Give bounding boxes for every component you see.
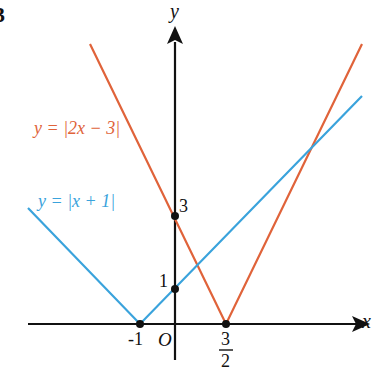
blue-curve-label: y = |x + 1| (38, 191, 115, 212)
y-axis-label: y (170, 0, 179, 23)
point-y1 (171, 285, 179, 293)
x-axis-label: x (362, 310, 371, 333)
red-curve (90, 44, 362, 324)
tick-label-neg1: -1 (128, 329, 143, 350)
tick-label-frac-num: 3 (221, 329, 230, 350)
tick-label-1: 1 (159, 271, 168, 292)
tick-label-3: 3 (179, 196, 188, 217)
point-neg1 (136, 320, 144, 328)
tick-label-frac-den: 2 (221, 351, 230, 372)
point-y3 (171, 212, 179, 220)
y-axis-arrow-icon (167, 26, 183, 44)
red-curve-label: y = |2x − 3| (34, 118, 120, 139)
origin-label: O (158, 329, 172, 351)
graph (0, 0, 377, 378)
point-three-halves (222, 320, 230, 328)
